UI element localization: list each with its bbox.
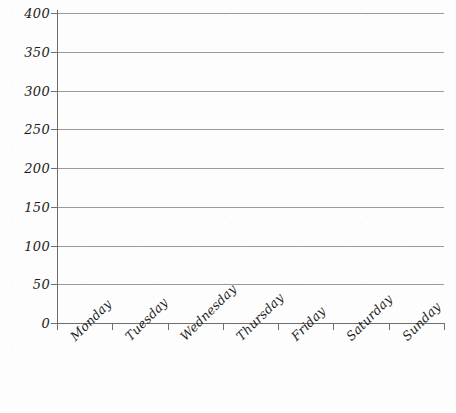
x-axis-tick <box>333 323 334 330</box>
gridline <box>57 207 444 208</box>
chart-container: 400 350 300 250 200 150 100 50 0 Monday … <box>0 0 456 413</box>
y-axis-tick-label: 400 <box>6 6 50 21</box>
x-axis-tick <box>444 323 445 330</box>
gridline <box>57 129 444 130</box>
gridline <box>57 284 444 285</box>
gridline <box>57 168 444 169</box>
y-axis-tick-label: 250 <box>6 122 50 137</box>
x-axis-tick <box>223 323 224 330</box>
gridline <box>57 91 444 92</box>
y-axis-tick-label: 350 <box>6 44 50 59</box>
x-axis-tick <box>57 323 58 330</box>
y-axis-tick-label: 300 <box>6 83 50 98</box>
gridline <box>57 246 444 247</box>
y-axis-tick-label: 100 <box>6 238 50 253</box>
x-axis-tick <box>278 323 279 330</box>
x-axis-tick <box>389 323 390 330</box>
y-axis-tick-label: 0 <box>6 316 50 331</box>
y-axis-tick-label: 50 <box>6 277 50 292</box>
x-axis-tick <box>168 323 169 330</box>
y-axis-tick-label: 200 <box>6 161 50 176</box>
plot-area <box>57 13 444 323</box>
y-axis-tick-label: 150 <box>6 199 50 214</box>
y-axis-line <box>57 10 58 328</box>
gridline <box>57 52 444 53</box>
gridline <box>57 13 444 14</box>
x-axis-tick <box>112 323 113 330</box>
